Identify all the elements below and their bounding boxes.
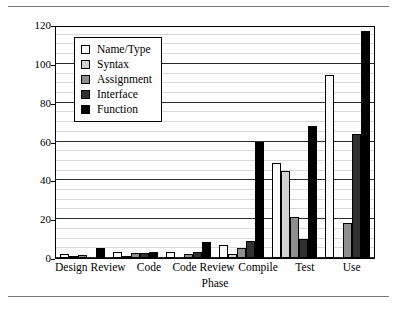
legend-item: Interface: [81, 87, 152, 102]
bar-group: [268, 27, 321, 258]
y-axis-tick-mark: [51, 26, 55, 27]
legend-item-label: Name/Type: [97, 44, 150, 56]
x-axis-tick-label: Compile: [235, 261, 282, 274]
bar: [299, 239, 308, 258]
legend-item: Syntax: [81, 57, 152, 72]
bar: [96, 248, 105, 258]
x-axis-tick-label: Code Review: [172, 261, 234, 274]
bar: [166, 252, 175, 258]
bar: [219, 245, 228, 258]
legend-item-label: Syntax: [97, 59, 129, 71]
bar: [246, 241, 255, 258]
bar: [193, 252, 202, 258]
legend-item-label: Assignment: [97, 74, 152, 86]
figure-bottom-rule: [8, 296, 389, 297]
bar: [140, 253, 149, 258]
bar: [272, 163, 281, 258]
bar: [69, 256, 78, 258]
bar: [281, 171, 290, 258]
bar-group: [162, 27, 215, 258]
bar-group: [215, 27, 268, 258]
legend-item: Name/Type: [81, 42, 152, 57]
legend-item-label: Function: [97, 104, 138, 116]
bar: [113, 252, 122, 258]
bar: [361, 31, 370, 258]
y-axis-tick-label: 80: [0, 98, 51, 109]
legend-swatch-icon: [81, 105, 90, 114]
bar: [184, 254, 193, 258]
bar: [308, 126, 317, 258]
legend-swatch-icon: [81, 45, 90, 54]
legend-item-label: Interface: [97, 89, 138, 101]
y-axis-tick-mark: [51, 143, 55, 144]
bar: [78, 255, 87, 258]
bar: [237, 248, 246, 258]
x-axis-ticks: Design ReviewCodeCode ReviewCompileTestU…: [55, 261, 375, 274]
x-axis-tick-label: Code: [126, 261, 173, 274]
legend-item: Assignment: [81, 72, 152, 87]
x-axis-tick-label: Use: [328, 261, 375, 274]
figure-top-rule: [8, 6, 389, 7]
bar: [60, 254, 69, 258]
y-axis-tick-label: 120: [0, 20, 51, 31]
x-axis-tick-label: Test: [281, 261, 328, 274]
y-axis-tick-label: 0: [0, 253, 51, 264]
legend-item: Function: [81, 102, 152, 117]
legend-swatch-icon: [81, 60, 90, 69]
legend-swatch-icon: [81, 75, 90, 84]
y-axis-tick-label: 40: [0, 175, 51, 186]
y-axis-tick-mark: [51, 104, 55, 105]
x-axis-label: Phase: [55, 277, 375, 289]
bar: [122, 256, 131, 258]
bar: [202, 242, 211, 258]
bar: [228, 254, 237, 258]
bar: [343, 223, 352, 258]
bar-group: [321, 27, 374, 258]
bar: [290, 217, 299, 258]
legend: Name/TypeSyntaxAssignmentInterfaceFuncti…: [74, 37, 162, 122]
y-axis-tick-label: 100: [0, 59, 51, 70]
y-axis-tick-mark: [51, 181, 55, 182]
y-axis-tick-mark: [51, 259, 55, 260]
y-axis-tick-label: 60: [0, 137, 51, 148]
legend-swatch-icon: [81, 90, 90, 99]
bar: [255, 142, 264, 259]
figure-container: Average Fix Time (minutes) 0204060801001…: [0, 0, 397, 311]
bar: [131, 253, 140, 258]
bar: [325, 75, 334, 258]
y-axis-tick-label: 20: [0, 214, 51, 225]
bar: [352, 134, 361, 258]
y-axis-tick-mark: [51, 220, 55, 221]
y-axis-tick-mark: [51, 65, 55, 66]
x-axis-tick-label: Design Review: [55, 261, 126, 274]
bar: [149, 252, 158, 258]
